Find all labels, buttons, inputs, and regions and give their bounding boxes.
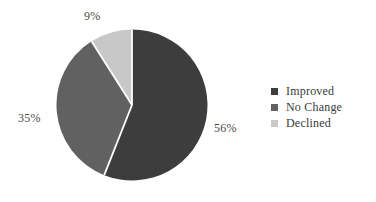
legend-swatch-improved-icon (271, 88, 278, 95)
legend-item-declined[interactable]: Declined (271, 115, 342, 131)
chart-legend: Improved No Change Declined (271, 83, 342, 131)
slice-label-no-change: 35% (18, 111, 41, 126)
legend-label-improved: Improved (286, 83, 334, 99)
slice-label-declined: 9% (84, 9, 100, 24)
slice-label-improved: 56% (214, 121, 237, 136)
pie-chart-figure: 9% 35% 56% Improved No Change Declined (0, 0, 376, 202)
legend-label-no-change: No Change (286, 99, 342, 115)
legend-swatch-no-change-icon (271, 104, 278, 111)
legend-label-declined: Declined (286, 115, 331, 131)
pie-chart-svg (56, 29, 208, 181)
legend-item-improved[interactable]: Improved (271, 83, 342, 99)
pie-chart-plot-area (56, 29, 208, 181)
legend-swatch-declined-icon (271, 120, 278, 127)
legend-item-no-change[interactable]: No Change (271, 99, 342, 115)
